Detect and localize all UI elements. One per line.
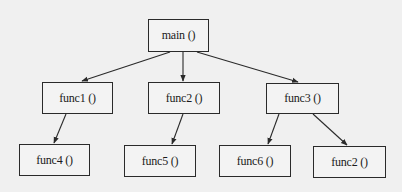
- node-label: func6 (): [237, 154, 274, 169]
- edge-main-func3: [197, 52, 298, 82]
- node-label: func4 (): [36, 153, 73, 168]
- edge-func3-func2b: [313, 114, 347, 145]
- node-func2: func2 (): [148, 82, 220, 114]
- node-label: func2 (): [166, 91, 203, 106]
- node-label: func2 (): [331, 155, 368, 170]
- node-label: main (): [162, 28, 196, 43]
- call-tree-diagram: main () func1 () func2 () func3 () func4…: [0, 0, 402, 192]
- node-func6: func6 (): [219, 145, 291, 177]
- node-func5: func5 (): [124, 145, 196, 177]
- node-func3: func3 (): [266, 83, 339, 114]
- edge-func3-func6: [268, 114, 279, 144]
- edge-func1-func4: [54, 114, 66, 143]
- node-label: func3 (): [284, 91, 321, 106]
- edge-func2-func5: [172, 114, 183, 144]
- node-func1: func1 (): [42, 82, 113, 114]
- node-func2-leaf: func2 (): [313, 146, 386, 178]
- node-label: func1 (): [59, 91, 96, 106]
- node-label: func5 (): [142, 154, 179, 169]
- node-func4: func4 (): [19, 144, 90, 176]
- edge-main-func1: [82, 52, 170, 81]
- node-main: main (): [148, 19, 209, 52]
